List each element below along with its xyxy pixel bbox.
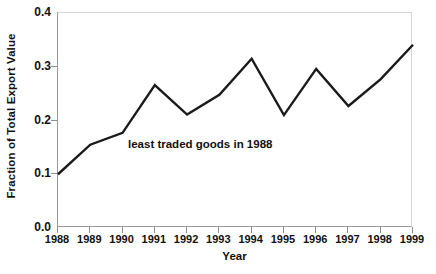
chart-annotation: least traded goods in 1988 — [128, 139, 272, 151]
y-axis-tick-mark — [51, 66, 57, 67]
x-axis-tick-label: 1989 — [77, 234, 101, 245]
y-axis-tick-label: 0.3 — [18, 60, 51, 72]
y-axis-title-text: Fraction of Total Export Value — [5, 33, 17, 198]
x-axis-tick-label: 1992 — [174, 234, 198, 245]
x-axis-tick-mark — [315, 227, 316, 233]
x-axis-tick-label: 1994 — [238, 234, 262, 245]
x-axis-tick-mark — [186, 227, 187, 233]
x-axis-tick-mark — [89, 227, 90, 233]
y-axis-tick-mark — [51, 120, 57, 121]
x-axis-tick-mark — [57, 227, 58, 233]
x-axis-tick-label: 1990 — [109, 234, 133, 245]
x-axis-tick-label: 1999 — [400, 234, 424, 245]
x-axis-tick-mark — [218, 227, 219, 233]
x-axis-title-text: Year — [222, 250, 246, 262]
x-axis-tick-mark — [380, 227, 381, 233]
x-axis-title: Year — [57, 250, 412, 262]
x-axis-tick-label: 1997 — [335, 234, 359, 245]
plot-area — [57, 12, 412, 227]
x-axis-tick-mark — [251, 227, 252, 233]
x-axis-tick-label: 1993 — [206, 234, 230, 245]
data-line-svg — [58, 13, 413, 228]
x-axis-tick-mark — [122, 227, 123, 233]
y-axis-tick-label: 0.2 — [18, 114, 51, 126]
x-axis-tick-mark — [154, 227, 155, 233]
x-axis-tick-label: 1998 — [367, 234, 391, 245]
y-axis-tick-label: 0.4 — [18, 6, 51, 18]
x-axis-tick-mark — [283, 227, 284, 233]
y-axis-tick-label: 0.0 — [18, 221, 51, 233]
chart-figure: Fraction of Total Export Value 0.00.10.2… — [0, 0, 436, 274]
x-axis-tick-label: 1996 — [303, 234, 327, 245]
y-axis-tick-mark — [51, 173, 57, 174]
x-axis-tick-label: 1988 — [45, 234, 69, 245]
x-axis-tick-label: 1995 — [271, 234, 295, 245]
x-axis-tick-label: 1991 — [142, 234, 166, 245]
data-series-line — [58, 45, 413, 175]
y-axis-tick-label: 0.1 — [18, 167, 51, 179]
chart-annotation-text: least traded goods in 1988 — [128, 138, 272, 150]
x-axis-tick-mark — [347, 227, 348, 233]
x-axis-tick-mark — [412, 227, 413, 233]
